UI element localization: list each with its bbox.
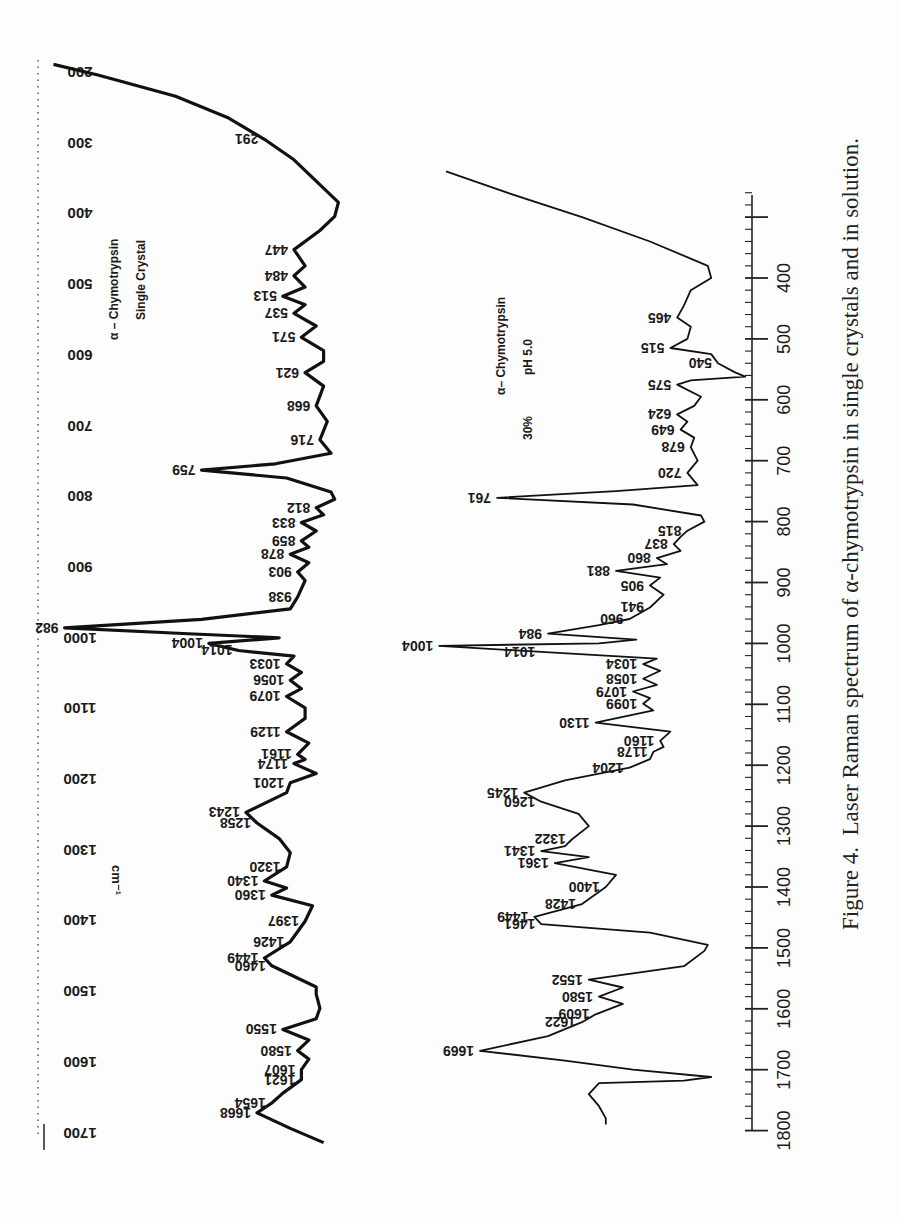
peak-label: 982 (35, 620, 59, 636)
axis-tick-label: 600 (67, 347, 92, 364)
axis-tick-label: 500 (774, 324, 794, 354)
peak-label: 1201 (253, 775, 284, 791)
caption-prefix: Figure 4. (838, 847, 863, 930)
peak-label: 1322 (534, 831, 565, 847)
peak-label: 1130 (559, 715, 590, 731)
spectrum-single-crystal: 2003004005006007008009001000110012001300… (35, 60, 338, 1150)
peak-label: 837 (644, 536, 668, 552)
peak-label: 1129 (250, 724, 281, 740)
peak-label: 960 (600, 611, 624, 627)
axis-tick-label: 1000 (63, 630, 96, 647)
peak-label: 1622 (545, 1014, 576, 1030)
peak-label: 1014 (201, 642, 232, 658)
spectrum-curve-single-crystal (54, 64, 339, 1142)
axis-tick-label: 800 (67, 488, 92, 505)
sample-label: α– Chymotrypsin (494, 297, 508, 395)
peak-label: 1360 (234, 887, 265, 903)
peak-label: 1079 (249, 688, 280, 704)
axis-tick-label: 700 (774, 446, 794, 476)
peak-label: 1460 (234, 958, 265, 974)
axis-tick-label: 800 (774, 507, 794, 537)
axis-tick-label: 1800 (774, 1111, 794, 1151)
sample-ph-label: pH 5.0 (521, 339, 535, 375)
axis-tick-label: 1200 (774, 745, 794, 785)
peak-label: 1426 (253, 934, 284, 950)
peak-label: 1174 (257, 756, 288, 772)
axis-tick-label: 900 (67, 559, 92, 576)
figure-caption: Figure 4. Laser Raman spectrum of α-chym… (838, 138, 864, 930)
peak-label: 649 (651, 422, 675, 438)
axis-tick-label: 900 (774, 567, 794, 597)
axis-tick-label: 1600 (63, 1054, 96, 1071)
spectrum-curve-solution (439, 171, 745, 1124)
axis-tick-label: 1300 (63, 842, 96, 859)
axis-tick-label: 1200 (63, 771, 96, 788)
spectrum-solution: 4005006007008009001000110012001300140015… (402, 171, 794, 1150)
axis-tick-label: 1400 (774, 867, 794, 907)
peak-label: 465 (648, 310, 672, 326)
peak-label: 720 (658, 465, 682, 481)
peak-label: 984 (518, 626, 542, 642)
peak-label: 1580 (260, 1043, 291, 1059)
peak-label: 678 (661, 439, 685, 455)
peak-label: 540 (688, 355, 712, 371)
peak-label: 1580 (562, 989, 593, 1005)
peak-label: 668 (287, 398, 311, 414)
peak-label: 759 (172, 462, 196, 478)
peak-label: 833 (272, 515, 296, 531)
axis-tick-label: 1700 (63, 1125, 96, 1142)
peak-label: 1461 (504, 916, 535, 932)
peak-label: 860 (627, 550, 651, 566)
axis-tick-label: 1100 (774, 685, 794, 724)
axis-tick-label: 1600 (774, 989, 794, 1029)
peak-label: 1033 (249, 656, 280, 672)
peak-label: 1320 (249, 859, 280, 875)
peak-label: 1550 (246, 1021, 277, 1037)
peak-label: 537 (264, 305, 288, 321)
peak-label: 1260 (504, 794, 535, 810)
peak-label: 447 (264, 242, 288, 258)
axis-tick-label: 1700 (774, 1050, 794, 1090)
sample-condition-label: Single Crystal (134, 240, 148, 320)
peak-label: 515 (641, 340, 665, 356)
axis-tick-label: 400 (67, 205, 92, 222)
peak-label: 624 (648, 406, 672, 422)
axis-tick-label: 1100 (64, 700, 97, 717)
peak-label: 621 (276, 365, 300, 381)
axis-tick-label: 400 (774, 263, 794, 293)
peak-label: 1099 (606, 696, 637, 712)
peak-label: 1428 (545, 896, 576, 912)
peak-label: 1204 (592, 760, 623, 776)
peak-label: 938 (268, 589, 292, 605)
peak-label: 291 (235, 131, 259, 147)
axis-tick-label: 700 (67, 418, 92, 435)
axis-tick-label: 1500 (774, 928, 794, 968)
peak-label: 575 (648, 377, 672, 393)
peak-label: 1340 (227, 873, 258, 889)
axis-tick-label: 1300 (774, 806, 794, 846)
peak-label: 1361 (517, 855, 548, 871)
axis-tick-label: 500 (67, 276, 92, 293)
figure-canvas: 2003004005006007008009001000110012001300… (0, 0, 901, 1217)
peak-label: 1004 (172, 635, 203, 651)
axis-tick-label: 1000 (774, 623, 794, 663)
peak-label: 1258 (220, 815, 251, 831)
axis-tick-label: 600 (774, 385, 794, 415)
peak-label: 1552 (551, 972, 582, 988)
sample-concentration-label: 30% (521, 416, 535, 440)
peak-label: 1178 (617, 744, 648, 760)
peak-label: 1034 (606, 656, 637, 672)
peak-label: 1397 (268, 913, 299, 929)
axis-unit-label: cm⁻¹ (109, 865, 124, 895)
peak-label: 812 (287, 500, 311, 516)
peak-label: 513 (253, 288, 277, 304)
peak-label: 1400 (568, 879, 599, 895)
peak-label: 716 (290, 432, 314, 448)
peak-label: 1621 (264, 1072, 295, 1088)
peak-label: 905 (620, 578, 644, 594)
sample-label: α – Chymotrypsin (107, 239, 121, 340)
peak-label: 881 (586, 563, 610, 579)
peak-label: 1056 (253, 672, 284, 688)
peak-label: 1014 (504, 644, 535, 660)
axis-tick-label: 1400 (63, 912, 96, 929)
